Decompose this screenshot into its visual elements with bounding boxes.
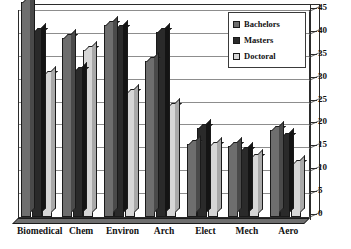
bar-chem-bachelors xyxy=(62,38,72,217)
legend-item-bachelors: Bachelors xyxy=(233,16,301,32)
bar-arch-bachelors xyxy=(145,61,155,217)
y-axis-line xyxy=(310,4,311,220)
bar-face xyxy=(22,3,30,216)
legend-item-masters: Masters xyxy=(233,32,301,48)
y-tick-35 xyxy=(310,54,317,55)
y-tick-label-25: 25 xyxy=(318,95,327,104)
bar-side xyxy=(30,0,35,213)
x-tick-label-environ: Environ xyxy=(106,226,139,237)
bar-face xyxy=(105,26,113,216)
bar-side xyxy=(41,23,46,213)
legend-label-doctoral: Doctoral xyxy=(244,52,276,61)
legend-swatch-bachelors xyxy=(233,21,240,28)
bar-side xyxy=(92,41,97,213)
x-tick-label-biomedical: Biomedical xyxy=(17,226,62,237)
bar-side xyxy=(217,137,222,213)
bar-side xyxy=(51,66,56,213)
x-tick-label-arch: Arch xyxy=(154,226,174,237)
bar-side xyxy=(289,128,294,213)
y-tick-label-10: 10 xyxy=(318,163,327,172)
y-tick-label-40: 40 xyxy=(318,26,327,35)
bar-side xyxy=(123,20,128,213)
y-tick-label-5: 5 xyxy=(318,186,323,195)
y-tick-40 xyxy=(310,31,317,32)
chart-floor xyxy=(12,218,310,224)
legend-item-doctoral: Doctoral xyxy=(233,48,301,64)
bar-mech-bachelors xyxy=(228,146,238,217)
bar-side xyxy=(237,137,242,213)
bar-side xyxy=(248,142,253,213)
y-tick-15 xyxy=(310,145,317,146)
bar-elect-bachelors xyxy=(187,144,197,217)
bar-face xyxy=(188,145,196,216)
bar-side xyxy=(258,149,263,214)
x-tick-label-mech: Mech xyxy=(236,226,259,237)
x-axis-labels: BiomedicalChemEnvironArchElectMechAero xyxy=(0,226,351,242)
y-axis: 051015202530354045 xyxy=(310,4,351,220)
legend-swatch-masters xyxy=(233,37,240,44)
bar-side xyxy=(196,135,201,213)
bar-group-environ xyxy=(102,11,143,217)
x-tick-label-aero: Aero xyxy=(278,226,298,237)
bar-environ-bachelors xyxy=(104,25,114,217)
y-tick-25 xyxy=(310,100,317,101)
y-tick-label-30: 30 xyxy=(318,72,327,81)
bar-side xyxy=(134,84,139,213)
bar-side xyxy=(165,23,170,213)
x-tick-label-chem: Chem xyxy=(69,226,93,237)
bar-side xyxy=(82,62,87,213)
y-tick-0 xyxy=(310,214,317,215)
bar-side xyxy=(300,155,305,213)
bar-side xyxy=(113,16,118,213)
bar-group-arch xyxy=(143,11,184,217)
y-tick-30 xyxy=(310,77,317,78)
legend-swatch-doctoral xyxy=(233,53,240,60)
bar-chart: 051015202530354045 BiomedicalChemEnviron… xyxy=(0,0,351,249)
bar-side xyxy=(175,98,180,213)
bar-side xyxy=(71,29,76,213)
bar-aero-bachelors xyxy=(270,130,280,217)
bar-side xyxy=(279,121,284,213)
bar-side xyxy=(206,119,211,213)
y-tick-label-35: 35 xyxy=(318,49,327,58)
y-tick-10 xyxy=(310,168,317,169)
y-tick-45 xyxy=(310,8,317,9)
y-tick-label-15: 15 xyxy=(318,140,327,149)
y-tick-label-20: 20 xyxy=(318,117,327,126)
legend-label-bachelors: Bachelors xyxy=(244,20,280,29)
bar-group-elect xyxy=(185,11,226,217)
legend-label-masters: Masters xyxy=(244,36,273,45)
bar-face xyxy=(229,147,237,216)
bar-group-chem xyxy=(60,11,101,217)
bar-side xyxy=(154,52,159,213)
chart-legend: Bachelors Masters Doctoral xyxy=(228,12,306,68)
y-tick-5 xyxy=(310,191,317,192)
bar-biomedical-bachelors xyxy=(21,2,31,217)
y-tick-label-0: 0 xyxy=(318,209,323,218)
bar-group-biomedical xyxy=(19,11,60,217)
x-tick-label-elect: Elect xyxy=(195,226,216,237)
y-tick-20 xyxy=(310,122,317,123)
y-tick-label-45: 45 xyxy=(318,3,327,12)
bar-face xyxy=(271,131,279,216)
